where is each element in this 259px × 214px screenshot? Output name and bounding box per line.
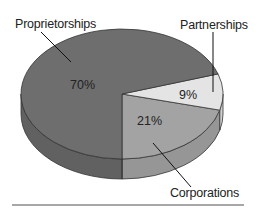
data-label-partnerships: 9% xyxy=(179,88,197,102)
data-label-corporations: 21% xyxy=(137,114,162,128)
pie-chart: 70% 9% 21% Proprietorships Partnerships … xyxy=(0,0,259,214)
category-label-corporations: Corporations xyxy=(170,186,239,200)
category-label-partnerships: Partnerships xyxy=(180,18,248,32)
data-label-proprietorships: 70% xyxy=(70,78,95,92)
category-label-proprietorships: Proprietorships xyxy=(15,17,96,31)
